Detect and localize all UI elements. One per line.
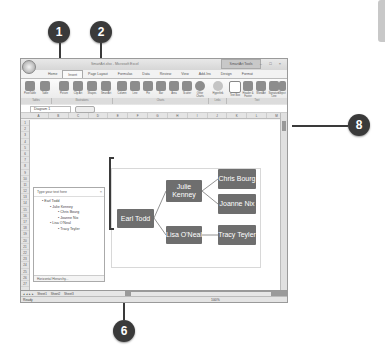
header-footer-button[interactable]: Header & Footer (241, 81, 255, 98)
column-chart-icon (117, 81, 127, 91)
window-title: SmartArt.xlsx - Microsoft Excel (91, 62, 139, 66)
group-illustrations: Illustrations (52, 98, 113, 104)
selection-bracket-top (109, 157, 114, 159)
node-earl-todd[interactable]: Earl Todd (117, 209, 154, 228)
smartart-icon (101, 81, 111, 91)
window-controls[interactable]: – □ × (260, 61, 284, 66)
smartart-text-pane: Type your text here × • Earl Todd • Juli… (33, 187, 105, 282)
tab-view[interactable]: View (176, 70, 194, 78)
col-header[interactable]: K (227, 113, 247, 118)
col-header[interactable]: C (69, 113, 89, 118)
column-chart-button[interactable]: Column (115, 81, 129, 95)
scatter-chart-button[interactable]: Scatter (180, 81, 194, 95)
title-bar: SmartArt.xlsx - Microsoft Excel SmartArt… (21, 59, 287, 70)
close-icon[interactable]: × (100, 189, 102, 194)
wordart-button[interactable]: WordArt (254, 81, 268, 95)
col-header[interactable]: B (49, 113, 69, 118)
node-tracy-teyler[interactable]: Tracy Teyler (218, 225, 256, 245)
tab-add-ins[interactable]: Add-Ins (194, 70, 216, 78)
group-links: Links (209, 98, 227, 104)
table-icon (40, 81, 50, 91)
ribbon-insert: PivotTable Table Picture Clip Art Shapes… (21, 78, 287, 106)
group-charts: Charts (113, 98, 209, 104)
name-box[interactable]: Diagram 1 (30, 106, 71, 113)
column-headers: A B C D E F G H I J K L M (21, 113, 287, 119)
picture-icon (59, 81, 69, 91)
vertical-scrollbar[interactable] (280, 113, 287, 290)
object-icon (279, 81, 286, 91)
row-headers: 1 2 3 4 5 6 7 8 9 10 11 12 13 14 15 16 1… (21, 120, 30, 290)
area-chart-button[interactable]: Area (167, 81, 181, 95)
page-edge-tab (378, 0, 385, 42)
col-header[interactable]: I (188, 113, 208, 118)
shapes-icon (87, 81, 97, 91)
text-pane-footer-link[interactable]: Horizontal Hierarchy... (34, 275, 104, 281)
wordart-icon (256, 81, 266, 91)
smartart-button[interactable]: SmartArt (99, 81, 113, 95)
node-julie-kenney[interactable]: Julie Kenney (166, 180, 202, 202)
selection-bracket-bottom (109, 228, 114, 230)
text-pane-header: Type your text here × (34, 188, 104, 197)
line-chart-button[interactable]: Line (128, 81, 142, 95)
callout-8-line (292, 125, 348, 127)
col-header[interactable]: F (128, 113, 148, 118)
scroll-thumb[interactable] (282, 121, 286, 131)
bar-chart-button[interactable]: Bar (154, 81, 168, 95)
tab-format[interactable]: Format (237, 70, 258, 78)
line-chart-icon (130, 81, 140, 91)
excel-window: SmartArt.xlsx - Microsoft Excel SmartArt… (20, 58, 288, 303)
node-joanne-nix[interactable]: Joanne Nix (218, 194, 256, 214)
area-chart-icon (169, 81, 179, 91)
col-header[interactable]: L (247, 113, 267, 118)
pivottable-button[interactable]: PivotTable (23, 81, 37, 95)
callout-6: 6 (113, 320, 135, 342)
other-charts-icon (195, 81, 205, 91)
pie-chart-button[interactable]: Pie (141, 81, 155, 95)
callout-2: 2 (90, 21, 112, 43)
text-pane-list: • Earl Todd • Julie Kenney • Chris Bourg… (34, 197, 104, 235)
clip-art-icon (73, 81, 83, 91)
group-tables: Tables (21, 98, 52, 104)
shapes-button[interactable]: Shapes (85, 81, 99, 95)
tab-home[interactable]: Home (43, 70, 62, 78)
pie-chart-icon (143, 81, 153, 91)
formula-bar: Diagram 1 (21, 105, 287, 113)
tab-page-layout[interactable]: Page Layout (83, 70, 113, 78)
col-header[interactable]: E (108, 113, 128, 118)
node-lisa-oneal[interactable]: Lisa O'Neal (166, 226, 202, 244)
zoom-level[interactable]: 100% (211, 297, 220, 303)
text-box-icon (229, 81, 241, 93)
smartart-diagram[interactable]: Earl Todd Julie Kenney Lisa O'Neal Chris… (111, 168, 261, 268)
col-header[interactable]: G (148, 113, 168, 118)
callout-8: 8 (348, 114, 370, 136)
picture-button[interactable]: Picture (57, 81, 71, 95)
callout-1: 1 (48, 21, 70, 43)
group-text: Text (227, 98, 288, 104)
hyperlink-icon (213, 81, 223, 91)
text-box-button[interactable]: Text Box (228, 81, 242, 97)
object-button[interactable]: Object (277, 81, 287, 95)
col-header[interactable]: J (208, 113, 228, 118)
other-charts-button[interactable]: Other Charts (193, 81, 207, 98)
bar-chart-icon (156, 81, 166, 91)
fx-button[interactable] (75, 106, 95, 113)
tab-data[interactable]: Data (137, 70, 154, 78)
tab-formulas[interactable]: Formulas (113, 70, 138, 78)
row-header[interactable]: 27 (21, 281, 29, 287)
col-header[interactable]: A (29, 113, 49, 118)
pivottable-icon (25, 81, 35, 91)
list-item[interactable]: • Tracy Teyler (34, 227, 104, 233)
scatter-chart-icon (182, 81, 192, 91)
tab-insert[interactable]: Insert (62, 70, 83, 78)
table-button[interactable]: Table (38, 81, 52, 95)
hyperlink-button[interactable]: Hyperlink (211, 81, 225, 95)
clip-art-button[interactable]: Clip Art (71, 81, 85, 95)
tab-review[interactable]: Review (155, 70, 176, 78)
tab-design[interactable]: Design (216, 70, 237, 78)
col-header[interactable]: D (89, 113, 109, 118)
status-ready: Ready (23, 297, 33, 303)
selection-bracket (109, 157, 111, 229)
node-chris-bourg[interactable]: Chris Bourg (218, 169, 256, 189)
col-header[interactable]: H (168, 113, 188, 118)
status-bar: Ready 100% (21, 296, 287, 303)
